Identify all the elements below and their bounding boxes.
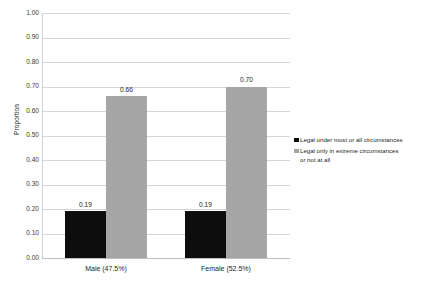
y-axis-tick-label: 0.60 bbox=[13, 108, 39, 115]
legend-label: Legal only in extreme circumstances or n… bbox=[300, 147, 399, 165]
plot-area: 0.190.660.190.70 bbox=[42, 13, 290, 258]
bar-value-label: 0.19 bbox=[185, 202, 226, 209]
bar[interactable] bbox=[226, 87, 267, 259]
y-axis-tick-label: 0.10 bbox=[13, 230, 39, 237]
y-axis-tick-label: 0.00 bbox=[13, 255, 39, 262]
x-axis-category-label: Male (47.5%) bbox=[65, 265, 147, 272]
y-axis-tick-label: 1.00 bbox=[13, 10, 39, 17]
y-axis-tick-label: 0.70 bbox=[13, 83, 39, 90]
bar-value-label: 0.66 bbox=[106, 87, 147, 94]
bar[interactable] bbox=[106, 96, 147, 258]
gridline bbox=[42, 13, 290, 14]
legend-item[interactable]: Legal under most or all circumstances bbox=[294, 136, 424, 145]
legend-swatch-icon bbox=[294, 149, 299, 154]
legend-item[interactable]: Legal only in extreme circumstances or n… bbox=[294, 147, 424, 165]
y-axis-tick-labels: 1.000.900.800.700.600.500.400.300.200.10… bbox=[12, 0, 39, 285]
chart-legend: Legal under most or all circumstancesLeg… bbox=[294, 136, 424, 167]
gridline bbox=[42, 62, 290, 63]
bar-value-label: 0.70 bbox=[226, 77, 267, 84]
gridline bbox=[42, 38, 290, 39]
bar[interactable] bbox=[185, 211, 226, 258]
bar[interactable] bbox=[65, 211, 106, 258]
bar-chart: Proportion 1.000.900.800.700.600.500.400… bbox=[0, 0, 424, 285]
y-axis-tick-label: 0.50 bbox=[13, 132, 39, 139]
y-axis-tick-label: 0.40 bbox=[13, 157, 39, 164]
bar-value-label: 0.19 bbox=[65, 202, 106, 209]
y-axis-tick-label: 0.90 bbox=[13, 34, 39, 41]
axis-baseline bbox=[42, 258, 290, 259]
legend-swatch-icon bbox=[294, 138, 299, 143]
x-axis-category-label: Female (52.5%) bbox=[185, 265, 267, 272]
y-axis-tick-label: 0.20 bbox=[13, 206, 39, 213]
legend-label: Legal under most or all circumstances bbox=[300, 136, 403, 145]
y-axis-tick-label: 0.30 bbox=[13, 181, 39, 188]
y-axis-tick-label: 0.80 bbox=[13, 59, 39, 66]
